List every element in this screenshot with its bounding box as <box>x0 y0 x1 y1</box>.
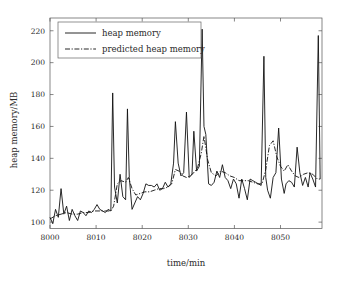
x-tick-label: 8000 <box>40 233 59 242</box>
y-tick-label: 140 <box>31 154 46 163</box>
y-tick-label: 160 <box>31 122 46 131</box>
x-tick-label: 8020 <box>133 233 152 242</box>
chart-figure: 800080108020803080408050 100120140160180… <box>0 0 347 284</box>
y-tick-label: 180 <box>31 90 46 99</box>
x-tick-labels: 800080108020803080408050 <box>40 233 290 242</box>
x-tick-label: 8030 <box>179 233 198 242</box>
x-tick-label: 8040 <box>225 233 244 242</box>
chart-legend: heap memorypredicted heap memory <box>58 22 205 58</box>
x-axis-title: time/min <box>167 258 206 268</box>
x-tick-label: 8050 <box>271 233 290 242</box>
line-chart: 800080108020803080408050 100120140160180… <box>0 0 347 284</box>
y-axis-title: heap memory/MB <box>9 92 19 169</box>
y-tick-label: 120 <box>31 186 46 195</box>
y-tick-label: 100 <box>31 218 46 227</box>
x-tick-label: 8010 <box>87 233 106 242</box>
legend-label: heap memory <box>102 28 161 38</box>
y-tick-label: 200 <box>31 58 46 67</box>
y-tick-labels: 100120140160180200220 <box>31 27 46 227</box>
y-tick-label: 220 <box>31 27 46 36</box>
legend-label: predicted heap memory <box>102 44 205 54</box>
